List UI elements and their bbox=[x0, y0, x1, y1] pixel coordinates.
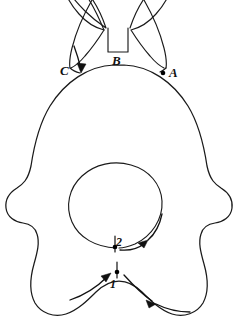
label-2-text: 2 bbox=[116, 236, 122, 248]
left-ear-body-join bbox=[70, 68, 80, 73]
label-b-text: B bbox=[112, 54, 121, 67]
body-outline-path bbox=[6, 65, 232, 315]
left-ear-loop-path bbox=[68, 0, 106, 28]
point-1-dot bbox=[115, 270, 120, 275]
label-c-text: C bbox=[60, 64, 69, 77]
label-a-text: A bbox=[169, 66, 178, 79]
left-ear-loop-stroke bbox=[70, 0, 92, 68]
diagram-canvas bbox=[0, 0, 236, 325]
point-1-left-arrow-path bbox=[70, 277, 107, 300]
figure-container: A B C 1 2 bbox=[0, 0, 236, 325]
right-ear-loop-stroke bbox=[144, 0, 166, 68]
notch-rectangle-path bbox=[108, 28, 128, 52]
label-a-dot-marker bbox=[161, 71, 166, 76]
label-1-text: 1 bbox=[110, 278, 116, 290]
right-ear-loop-path bbox=[130, 0, 146, 28]
label-c-arrowhead bbox=[77, 63, 86, 73]
